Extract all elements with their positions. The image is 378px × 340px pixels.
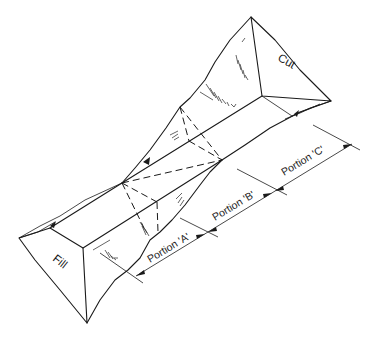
fill-section [19,160,222,323]
dim-arrow-b-start [208,227,217,232]
portion-b-label: Portion 'B' [210,188,257,223]
fill-label: Fill [51,252,70,271]
cut-formation-inner-edge [122,96,262,183]
dimension-line [136,144,352,276]
fill-end-face [19,228,87,323]
extension-line-a-start [100,253,143,283]
lower-mid-dash [122,183,157,202]
fill-edge-detail [19,222,55,238]
transition-hatch-1 [170,131,179,140]
dim-arrow-c-start [275,186,284,191]
cut-slope-tick [242,38,245,42]
lower-slope-dash [122,183,145,230]
upper-slope-dash [180,107,222,160]
pivot-line-hidden [122,160,222,183]
dim-arrow-c-end [343,144,352,149]
portion-c-label: Portion 'C' [279,143,326,178]
transition-hatch-2 [176,193,184,206]
dim-arrow-a-end [196,234,205,239]
cut-label: Cut [276,51,298,71]
fill-formation-inner-edge [50,183,122,228]
portion-a-label: Portion 'A' [145,230,192,265]
cut-slope-hatch-2 [236,55,248,80]
cut-fill-transition-diagram: Cut Fill Portion 'A' Portion 'B' Portion… [0,0,378,340]
dim-arrow-b-end [263,193,272,198]
upper-mid-dash [189,141,222,160]
cut-slope-top-edge [122,17,251,183]
transition-arrow-1 [143,157,150,165]
cut-edge-detail [285,104,320,119]
diagram-canvas: Cut Fill Portion 'A' Portion 'B' Portion… [0,0,378,340]
fill-top-edge [19,183,122,238]
cut-slope-hatch-1 [200,84,236,107]
dim-arrow-a-start [136,270,145,276]
lower-vertical-dash [157,202,158,232]
transition-hatch-3 [140,222,149,236]
